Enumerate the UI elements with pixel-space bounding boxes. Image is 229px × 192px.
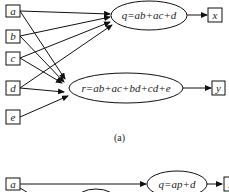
- node-r: r=ab+ac+bd+cd+e: [69, 73, 183, 103]
- svg-text:d: d: [10, 82, 16, 94]
- input-box-d: d: [6, 81, 20, 95]
- input-box-c: c: [6, 52, 20, 65]
- input-box-a: a: [6, 5, 20, 18]
- node-q: q=ab+ac+d: [111, 1, 187, 30]
- svg-text:x: x: [228, 178, 229, 190]
- svg-text:b: b: [10, 30, 16, 42]
- input-box-b: b: [6, 30, 20, 43]
- svg-text:e: e: [11, 111, 16, 123]
- svg-text:q=ab+ac+d: q=ab+ac+d: [122, 9, 177, 21]
- svg-text:a: a: [10, 5, 16, 17]
- svg-text:x: x: [212, 9, 218, 21]
- svg-text:c: c: [11, 52, 16, 64]
- output-box-b-x: x: [224, 177, 229, 191]
- svg-text:y: y: [215, 82, 221, 94]
- node-p-partial: [76, 189, 116, 192]
- svg-text:q=ap+d: q=ap+d: [159, 178, 196, 190]
- input-box-b-a: a: [6, 178, 20, 191]
- input-box-e: e: [6, 110, 20, 124]
- output-box-x: x: [208, 8, 222, 22]
- diagram-canvas: a b c d e q=ab+ac+d r=ab+ac+bd+cd+e x y …: [0, 0, 229, 192]
- node-q-b: q=ap+d: [147, 171, 207, 192]
- svg-text:a: a: [10, 178, 16, 190]
- caption-a: (a): [114, 132, 125, 144]
- output-box-y: y: [212, 81, 225, 95]
- svg-text:r=ab+ac+bd+cd+e: r=ab+ac+bd+cd+e: [81, 82, 170, 94]
